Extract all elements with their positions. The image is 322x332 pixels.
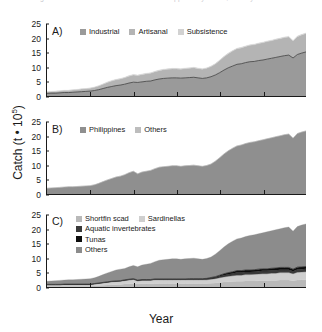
legend-label: Industrial bbox=[89, 27, 119, 36]
panel-c-legend: Shortfin scadSardinellas Aquatic inverte… bbox=[76, 214, 192, 256]
y-axis-tick-mark bbox=[46, 244, 49, 245]
x-axis-tick-mark bbox=[177, 190, 178, 194]
y-axis-tick-mark bbox=[46, 273, 49, 274]
y-axis-tick-mark bbox=[46, 151, 49, 152]
y-axis-tick-label: 10 bbox=[32, 64, 46, 73]
legend-entry: Aquatic invertebrates bbox=[76, 224, 155, 233]
legend-label: Others bbox=[144, 125, 167, 134]
x-axis-tick-mark bbox=[134, 190, 135, 194]
legend-swatch-icon bbox=[76, 226, 82, 232]
legend-entry: Tunas bbox=[76, 235, 106, 244]
panel-c: C) Shortfin scadSardinellas Aquatic inve… bbox=[46, 215, 306, 288]
x-axis-tick-mark bbox=[220, 283, 221, 287]
legend-label: Others bbox=[85, 245, 108, 254]
y-axis-tick-label: 20 bbox=[32, 225, 46, 234]
figure-caption: Fig. 1 Reconstructed total catch for the… bbox=[34, 0, 288, 1]
y-axis-tick-label: 10 bbox=[32, 162, 46, 171]
x-axis-tick-mark bbox=[90, 283, 91, 287]
y-axis-tick-mark bbox=[46, 215, 49, 216]
y-axis-tick-mark bbox=[46, 122, 49, 123]
figure-root: Fig. 1 Reconstructed total catch for the… bbox=[0, 0, 322, 332]
legend-swatch-icon bbox=[76, 236, 82, 242]
x-axis-tick-mark bbox=[90, 190, 91, 194]
legend-label: Shortfin scad bbox=[85, 214, 129, 223]
y-axis-tick-mark bbox=[46, 288, 49, 289]
y-axis-tick-label: 0 bbox=[36, 93, 46, 102]
x-axis-tick-mark bbox=[220, 92, 221, 96]
x-axis-tick-mark bbox=[134, 283, 135, 287]
y-axis-tick-mark bbox=[46, 67, 49, 68]
x-axis-label: Year bbox=[0, 312, 322, 326]
legend-label: Artisanal bbox=[138, 27, 167, 36]
legend-label: Tunas bbox=[85, 235, 106, 244]
x-axis-tick-mark bbox=[264, 92, 265, 96]
y-axis-tick-label: 0 bbox=[36, 284, 46, 293]
y-axis-tick-label: 5 bbox=[36, 176, 46, 185]
legend-swatch-icon bbox=[80, 127, 86, 133]
y-axis-label-mid: • 10 bbox=[11, 114, 25, 135]
panel-a: A) IndustrialArtisanalSubsistence 051015… bbox=[46, 24, 306, 97]
legend-swatch-icon bbox=[76, 216, 82, 222]
legend-swatch-icon bbox=[129, 29, 135, 35]
y-axis-tick-label: 15 bbox=[32, 147, 46, 156]
legend-entry: Sardinellas bbox=[139, 214, 185, 223]
legend-swatch-icon bbox=[135, 127, 141, 133]
y-axis-tick-label: 0 bbox=[36, 191, 46, 200]
legend-label: Subsistence bbox=[187, 27, 228, 36]
figure-caption-strip: Fig. 1 Reconstructed total catch for the… bbox=[0, 0, 322, 9]
y-axis-label: Catch (t • 105) bbox=[10, 98, 25, 188]
legend-entry: Others bbox=[135, 125, 167, 134]
legend-swatch-icon bbox=[76, 247, 82, 253]
legend-swatch-icon bbox=[139, 216, 145, 222]
legend-label: Philippines bbox=[89, 125, 125, 134]
x-axis-tick-mark bbox=[264, 283, 265, 287]
y-axis-tick-mark bbox=[46, 38, 49, 39]
legend-entry: Industrial bbox=[80, 27, 119, 36]
y-axis-tick-mark bbox=[46, 97, 49, 98]
panel-b: B) PhilippinesOthers 0510152025 bbox=[46, 122, 306, 195]
y-axis-tick-mark bbox=[46, 195, 49, 196]
y-axis-tick-mark bbox=[46, 24, 49, 25]
y-axis-tick-label: 25 bbox=[32, 118, 46, 127]
legend-entry: Artisanal bbox=[129, 27, 167, 36]
y-axis-tick-mark bbox=[46, 229, 49, 230]
y-axis-tick-label: 25 bbox=[32, 211, 46, 220]
y-axis-tick-label: 20 bbox=[32, 34, 46, 43]
y-axis-tick-mark bbox=[46, 53, 49, 54]
legend-entry: Others bbox=[76, 245, 108, 254]
x-axis-tick-mark bbox=[177, 92, 178, 96]
panel-a-label: A) bbox=[52, 25, 63, 37]
area-series-philippines bbox=[47, 131, 306, 194]
y-axis-tick-label: 20 bbox=[32, 132, 46, 141]
x-axis-tick-mark bbox=[220, 190, 221, 194]
y-axis-label-exponent: 5 bbox=[10, 109, 19, 113]
legend-entry: Subsistence bbox=[178, 27, 228, 36]
y-axis-tick-label: 5 bbox=[36, 269, 46, 278]
y-axis-tick-mark bbox=[46, 180, 49, 181]
legend-swatch-icon bbox=[80, 29, 86, 35]
y-axis-tick-label: 10 bbox=[32, 255, 46, 264]
y-axis-tick-mark bbox=[46, 258, 49, 259]
panel-b-legend: PhilippinesOthers bbox=[80, 125, 174, 135]
legend-swatch-icon bbox=[178, 29, 184, 35]
y-axis-label-head: Catch (t bbox=[11, 135, 25, 180]
y-axis-tick-label: 15 bbox=[32, 49, 46, 58]
y-axis-tick-mark bbox=[46, 165, 49, 166]
panel-a-legend: IndustrialArtisanalSubsistence bbox=[80, 27, 234, 37]
x-axis-tick-mark bbox=[177, 283, 178, 287]
y-axis-label-tail: ) bbox=[11, 105, 25, 109]
panel-c-label: C) bbox=[52, 215, 63, 227]
x-axis-tick-mark bbox=[90, 92, 91, 96]
legend-entry: Philippines bbox=[80, 125, 125, 134]
y-axis-tick-mark bbox=[46, 136, 49, 137]
x-axis-tick-mark bbox=[134, 92, 135, 96]
legend-label: Aquatic invertebrates bbox=[85, 224, 155, 233]
y-axis-tick-label: 5 bbox=[36, 78, 46, 87]
legend-entry: Shortfin scad bbox=[76, 214, 129, 223]
legend-label: Sardinellas bbox=[148, 214, 185, 223]
x-axis-tick-mark bbox=[264, 190, 265, 194]
y-axis-tick-label: 15 bbox=[32, 240, 46, 249]
y-axis-tick-label: 25 bbox=[32, 20, 46, 29]
y-axis-tick-mark bbox=[46, 82, 49, 83]
panel-b-label: B) bbox=[52, 123, 63, 135]
